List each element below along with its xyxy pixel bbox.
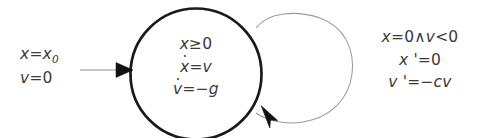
self-loop-arrowhead <box>257 106 280 130</box>
self-loop-edge <box>256 13 353 122</box>
mode-circle <box>131 9 262 139</box>
diagram-canvas <box>0 0 487 138</box>
hybrid-automaton-diagram: x=x0 v=0 x≥0 x=v v=−g x=0∧v<0 x '=0 <box>0 0 487 138</box>
